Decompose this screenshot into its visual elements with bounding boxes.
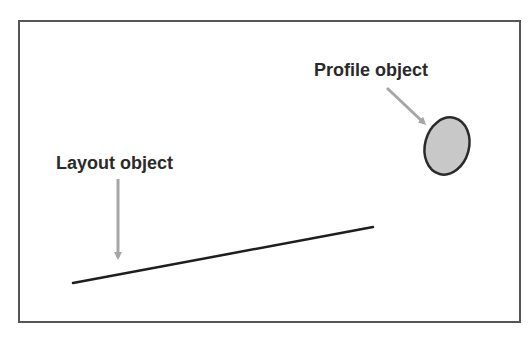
profile-object-label: Profile object — [314, 61, 428, 79]
layout-object-label: Layout object — [56, 154, 173, 172]
profile-object-ellipse — [418, 112, 476, 179]
profile-arrow-icon — [387, 88, 424, 123]
